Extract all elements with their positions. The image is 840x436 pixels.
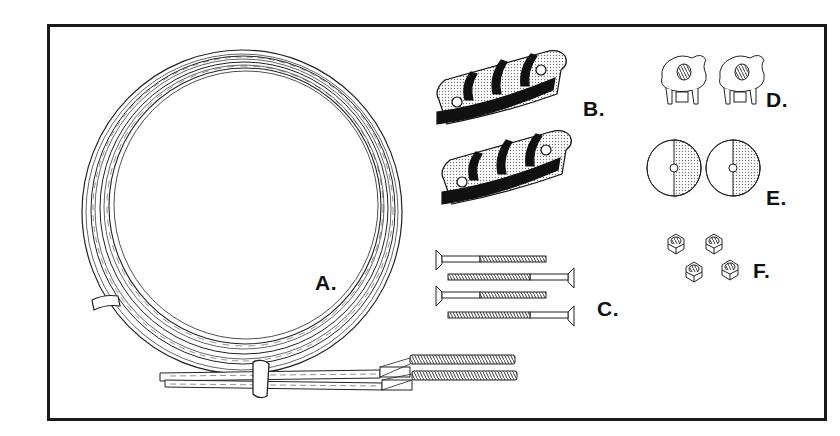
wood-screws-part-c (436, 250, 574, 326)
tee-nuts-part-d (662, 55, 765, 104)
cable-clamp-part-b (437, 51, 571, 204)
label-part-a: A. (315, 271, 337, 295)
washers-part-e (647, 140, 760, 196)
hex-nuts-part-f (668, 234, 738, 282)
label-part-d: D. (766, 88, 788, 112)
label-part-e: E. (766, 186, 787, 210)
parts-illustration (0, 0, 840, 436)
label-part-f: F. (753, 259, 770, 283)
label-part-b: B. (583, 97, 605, 121)
label-part-c: C. (597, 297, 619, 321)
